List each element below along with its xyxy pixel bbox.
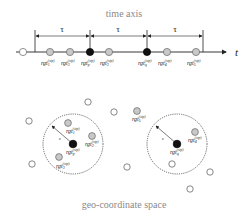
time-point-black <box>86 48 93 55</box>
point-label: rgt4(stp) <box>188 136 202 144</box>
geo-point-gray <box>65 120 72 127</box>
interval-label: τ <box>116 24 120 34</box>
radius-label: ε <box>59 136 61 141</box>
time-point-gray <box>66 48 73 55</box>
point-label: rgt3(stp) <box>56 162 70 170</box>
time-point-open <box>19 48 26 55</box>
point-label: rgt1(stp) <box>41 59 55 67</box>
interval-label: τ <box>173 24 177 34</box>
time-points: rgt1(stp)rgt2(stp)rgtp(stp)rgt3(stp)rgtq… <box>19 48 201 67</box>
point-label: rgt1(stp) <box>66 127 80 135</box>
point-label: rgt5(stp) <box>132 115 146 123</box>
point-label: rgtq(stp) <box>170 148 184 156</box>
point-label: rgt2(stp) <box>61 59 75 67</box>
point-label: rgtp(stp) <box>81 59 95 67</box>
point-label: rgt2(stp) <box>85 140 99 148</box>
point-open <box>26 118 32 124</box>
point-open <box>29 161 35 167</box>
point-open <box>207 169 213 175</box>
interval-label: τ <box>60 24 64 34</box>
time-point-gray <box>46 48 53 55</box>
time-axis-label: t <box>235 46 239 58</box>
geo-point-black <box>69 140 77 148</box>
geo-point-gray <box>134 108 141 115</box>
diagram: time axis geo-coordinate space τ τ τ t r… <box>0 0 249 218</box>
point-open <box>85 99 91 105</box>
point-open <box>187 186 193 192</box>
geo-space: ε ε <box>26 99 213 192</box>
point-open <box>111 109 117 115</box>
point-label: rgt3(stp) <box>100 59 114 67</box>
interval-brackets: τ τ τ <box>35 24 203 52</box>
geo-point-gray <box>192 129 199 136</box>
time-point-black <box>143 48 150 55</box>
point-label: rgtq(stp) <box>138 59 152 67</box>
geo-point-gray <box>56 154 63 161</box>
point-open <box>124 164 130 170</box>
point-label: rgtp(stp) <box>66 148 80 156</box>
geo-labeled-points: rgtp(stp)rgt1(stp)rgt2(stp)rgt3(stp)rgtq… <box>56 108 203 171</box>
geo-point-black <box>173 140 181 148</box>
time-axis-title: time axis <box>106 8 142 19</box>
geo-space-title: geo-coordinate space <box>82 199 167 210</box>
time-point-gray <box>192 48 199 55</box>
time-point-gray <box>163 48 170 55</box>
point-open <box>169 161 175 167</box>
point-label: rgt5(stp) <box>187 59 201 67</box>
point-label: rgt4(stp) <box>158 59 172 67</box>
time-point-gray <box>105 48 112 55</box>
radius-label: ε <box>162 136 164 141</box>
geo-point-gray <box>89 133 96 140</box>
